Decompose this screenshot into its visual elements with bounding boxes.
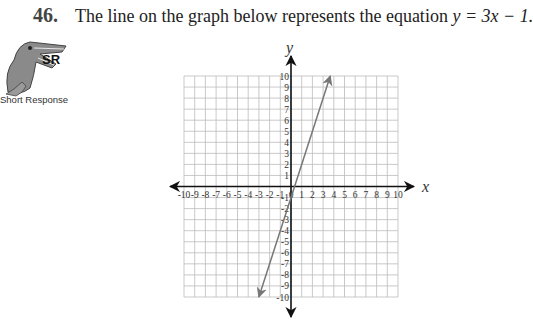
y-tick-label: -5 [281, 237, 289, 247]
y-tick-label: -9 [281, 281, 289, 291]
y-tick-label: 7 [284, 105, 289, 115]
y-tick-label: 10 [280, 72, 290, 82]
y-axis-label: y [284, 39, 294, 57]
y-tick-label: 3 [284, 149, 289, 159]
x-tick-label: 1 [299, 190, 304, 200]
x-tick-label: -4 [244, 190, 252, 200]
y-tick-label: -1 [281, 193, 289, 203]
x-tick-label: -5 [234, 190, 242, 200]
x-tick-label: -10 [178, 190, 191, 200]
x-tick-label: 4 [331, 190, 336, 200]
y-tick-label: -4 [281, 226, 289, 236]
x-tick-label: -2 [266, 190, 274, 200]
y-tick-label: 8 [284, 94, 289, 104]
y-tick-label: 9 [284, 83, 289, 93]
y-tick-label: -8 [281, 270, 289, 280]
x-tick-label: -3 [255, 190, 263, 200]
x-tick-label: 2 [310, 190, 315, 200]
x-tick-label: 5 [342, 190, 347, 200]
x-tick-label: -9 [191, 190, 199, 200]
y-tick-label: 5 [284, 127, 289, 137]
y-tick-label: 2 [284, 160, 289, 170]
x-tick-label: 6 [353, 190, 358, 200]
x-tick-label: 10 [393, 190, 403, 200]
y-tick-label: -7 [281, 259, 289, 269]
y-tick-label: -10 [276, 293, 289, 303]
y-tick-label: 4 [284, 138, 289, 148]
x-tick-label: 8 [374, 190, 379, 200]
x-tick-label: 3 [321, 190, 326, 200]
y-tick-label: 1 [284, 171, 289, 181]
x-tick-label: -6 [223, 190, 231, 200]
x-tick-label: 7 [364, 190, 369, 200]
y-tick-label: -6 [281, 248, 289, 258]
x-tick-label: 9 [385, 190, 390, 200]
x-axis-label: x [421, 178, 429, 195]
x-tick-label: -7 [212, 190, 220, 200]
x-tick-label: -8 [201, 190, 209, 200]
y-tick-label: 6 [284, 116, 289, 126]
